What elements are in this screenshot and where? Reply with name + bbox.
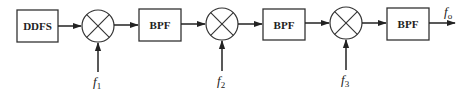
f2-label: f2 (217, 73, 225, 90)
ddfs-label: DDFS (23, 20, 52, 32)
f3-label: f3 (341, 72, 350, 89)
mixer-2 (206, 8, 238, 40)
mixer-1 (82, 10, 114, 42)
bpf2-label: BPF (274, 19, 295, 31)
f1-label: f1 (93, 74, 101, 91)
bpf1-label: BPF (150, 19, 171, 31)
bpf3-label: BPF (398, 18, 419, 30)
frequency-synthesizer-block-diagram: DDFS f1 BPF f2 BPF f3 (0, 0, 469, 95)
bpf-block-1: BPF (139, 9, 181, 41)
mixer-3 (330, 7, 362, 39)
bpf-block-2: BPF (263, 9, 305, 40)
output-frequency-label: fo (444, 4, 453, 21)
bpf-block-3: BPF (387, 8, 429, 40)
ddfs-block: DDFS (17, 10, 58, 42)
